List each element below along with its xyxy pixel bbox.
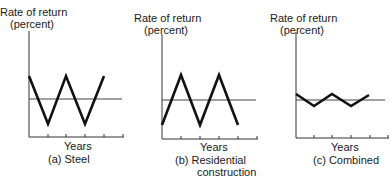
caption-line1: (a) Steel: [48, 153, 90, 165]
chart-panel-residential: Rate of return (percent) Years (b) Resid…: [130, 0, 260, 177]
return-line: [29, 76, 104, 124]
caption-line1: (b) Residential: [175, 154, 246, 166]
chart-panel-combined: Rate of return (percent) Years (c) Combi…: [260, 0, 390, 177]
panel-caption: (a) Steel: [48, 153, 90, 165]
x-axis-label: Years: [200, 141, 228, 153]
combined-plot: [260, 0, 391, 177]
panel-caption: (c) Combined: [313, 154, 379, 166]
x-axis-label: Years: [64, 140, 92, 152]
chart-panel-steel: Rate of return (percent) Years (a) Steel: [0, 0, 130, 177]
panel-caption: (b) Residential construction: [175, 154, 256, 177]
caption-line2: construction: [175, 166, 256, 177]
caption-line1: (c) Combined: [313, 154, 379, 166]
residential-plot: [130, 0, 260, 177]
x-axis-label: Years: [331, 141, 359, 153]
